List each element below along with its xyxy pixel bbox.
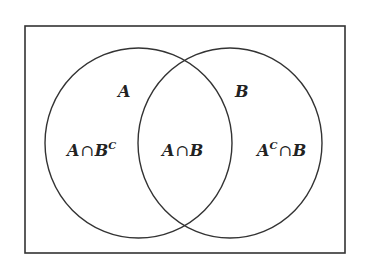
region-a-only-rhs: B [94, 141, 109, 160]
intersection-symbol: ∩ [278, 141, 291, 160]
intersection-symbol: ∩ [175, 141, 188, 160]
region-b-only-base: A [255, 141, 269, 160]
intersection-symbol: ∩ [80, 141, 93, 160]
region-a-only-base: A [65, 141, 79, 160]
region-b-only-rhs: B [292, 141, 307, 160]
venn-diagram: A B A∩BC A∩B AC∩B [0, 0, 365, 269]
region-b-only-label: AC∩B [255, 140, 306, 160]
region-intersection-base: A [160, 141, 174, 160]
set-b-label: B [234, 82, 249, 101]
complement-superscript: C [269, 140, 277, 151]
region-intersection-rhs: B [189, 141, 204, 160]
region-a-only-label: A∩BC [65, 140, 116, 160]
set-a-label: A [116, 82, 130, 101]
complement-superscript: C [108, 140, 116, 151]
region-intersection-label: A∩B [160, 141, 203, 160]
